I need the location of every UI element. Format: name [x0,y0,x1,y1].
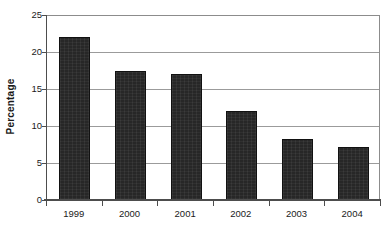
gridline [47,89,379,90]
y-axis-tick-mark [42,126,47,127]
y-axis-tick-label: 10 [22,121,42,131]
y-axis-tick-mark [42,89,47,90]
x-axis-tick-label: 2001 [157,209,213,219]
bar-2003 [282,139,313,200]
gridline [47,52,379,53]
x-axis-tick-mark [102,201,103,206]
bar-2004 [338,147,369,200]
x-axis-tick-mark [157,201,158,206]
x-axis-tick-mark [324,201,325,206]
gridline [47,15,379,16]
x-axis-tick-label: 2003 [269,209,325,219]
bar-1999 [59,37,90,200]
x-axis-tick-label: 2004 [324,209,380,219]
y-axis-tick-labels: 0510152025 [22,0,44,212]
x-axis-tick-mark [213,201,214,206]
bar-chart: Percentage 0510152025 199920002001200220… [0,0,388,234]
bar-2002 [226,111,257,200]
y-axis-title-label: Percentage [6,78,17,134]
y-axis-tick-mark [42,52,47,53]
y-axis-tick-label: 25 [22,10,42,20]
x-axis-tick-label: 1999 [46,209,102,219]
x-axis-tick-mark [269,201,270,206]
gridline [47,163,379,164]
bar-2000 [115,71,146,201]
x-axis-tick-mark [380,201,381,206]
plot-inner [47,15,379,200]
y-axis-tick-label: 20 [22,47,42,57]
y-axis-title: Percentage [0,0,22,212]
y-axis-tick-label: 5 [22,158,42,168]
y-axis-tick-label: 0 [22,195,42,205]
gridline [47,126,379,127]
plot-area [46,15,380,200]
y-axis-tick-mark [42,15,47,16]
bar-2001 [171,74,202,200]
y-axis-tick-mark [42,163,47,164]
y-axis-tick-label: 15 [22,84,42,94]
x-axis-tick-label: 2002 [213,209,269,219]
x-axis-tick-label: 2000 [102,209,158,219]
x-axis-tick-mark [46,201,47,206]
